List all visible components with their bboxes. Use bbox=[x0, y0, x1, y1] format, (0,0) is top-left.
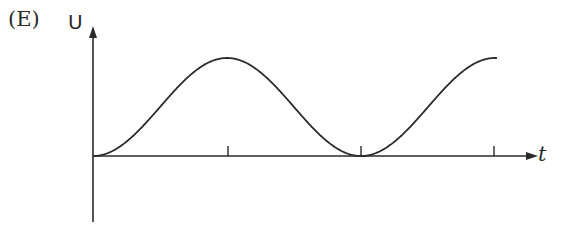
graph bbox=[0, 0, 569, 231]
energy-curve bbox=[93, 58, 497, 156]
x-axis-arrow-icon bbox=[526, 152, 538, 160]
y-axis-arrow-icon bbox=[89, 26, 97, 38]
